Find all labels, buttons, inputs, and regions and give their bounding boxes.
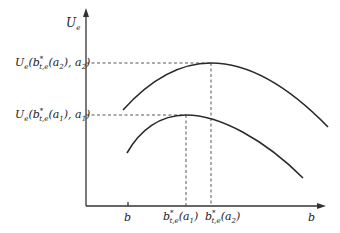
curve-a2: [123, 63, 328, 127]
x-axis-label: b: [308, 212, 315, 223]
x-tick-label-b-star-a1: b*t,e(a1): [163, 211, 198, 222]
y-tick-label-a2: Ue(b*t,e(a2), a2): [15, 57, 90, 68]
diagram-canvas: Ue Ue(b*t,e(a2), a2) Ue(b*t,e(a1), a1) b…: [0, 0, 340, 233]
curve-a1: [127, 115, 303, 178]
y-tick-label-a1: Ue(b*t,e(a1), a1): [15, 109, 90, 120]
x-axis-arrow-icon: [317, 203, 326, 209]
y-axis-label: Ue: [66, 17, 80, 29]
y-axis-arrow-icon: [83, 8, 89, 17]
x-tick-label-b-star-a2: b*t,e(a2): [205, 211, 240, 222]
x-tick-label-b: b: [124, 212, 131, 223]
